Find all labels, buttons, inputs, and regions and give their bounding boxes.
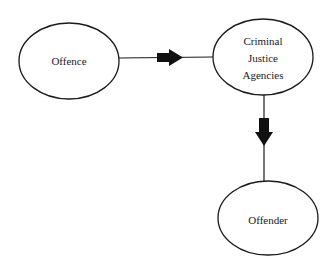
edge-cja-to-offender	[255, 95, 273, 181]
arrow-down-icon	[255, 118, 273, 146]
node-offender-label: Offender	[248, 212, 288, 229]
node-cja-label: Criminal Justice Agencies	[243, 33, 284, 84]
edge-offence-to-cja	[119, 49, 213, 66]
arrow-right-icon	[157, 49, 183, 66]
node-offence-label: Offence	[51, 53, 86, 70]
